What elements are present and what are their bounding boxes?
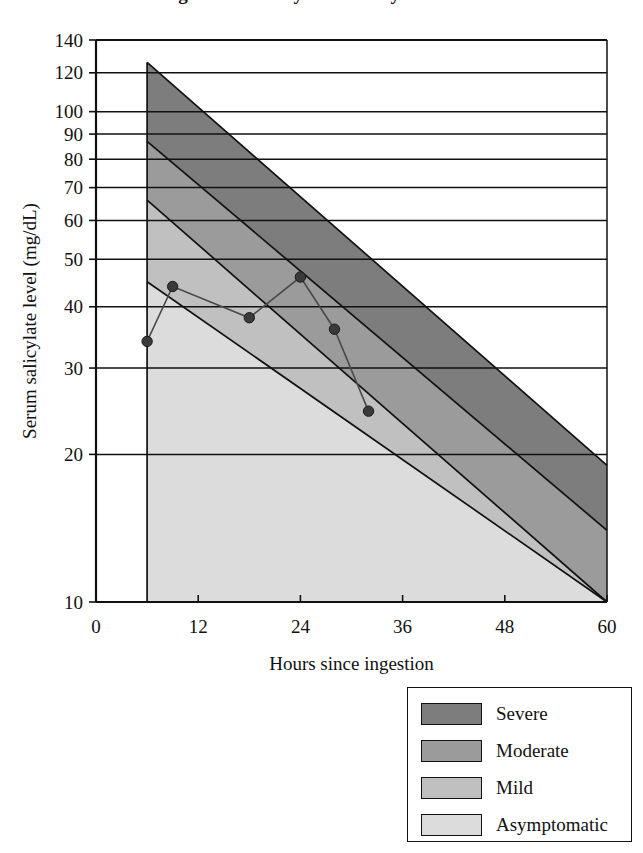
- data-point-5: [363, 406, 373, 416]
- toxicity-bands: [147, 62, 607, 602]
- legend-swatch-severe: [421, 703, 482, 725]
- done-nomogram-chart: 10203040506070809010012014001224364860Ho…: [0, 0, 643, 680]
- x-tick-label-36: 36: [393, 616, 412, 637]
- legend: Severe Moderate Mild Asymptomatic: [407, 687, 632, 842]
- legend-item-mild: Mild: [408, 771, 631, 804]
- x-tick-label-60: 60: [598, 616, 617, 637]
- legend-label-moderate: Moderate: [496, 741, 569, 760]
- y-tick-label-70: 70: [64, 177, 83, 198]
- y-tick-label-140: 140: [55, 30, 84, 51]
- legend-swatch-asymptomatic: [421, 814, 482, 836]
- x-tick-label-48: 48: [495, 616, 514, 637]
- data-point-2: [244, 313, 254, 323]
- legend-label-asymptomatic: Asymptomatic: [496, 815, 608, 834]
- data-point-1: [167, 281, 177, 291]
- y-tick-label-40: 40: [64, 296, 83, 317]
- y-tick-label-20: 20: [64, 444, 83, 465]
- y-tick-label-60: 60: [64, 210, 83, 231]
- data-point-3: [295, 272, 305, 282]
- y-tick-label-50: 50: [64, 249, 83, 270]
- y-tick-label-90: 90: [64, 124, 83, 145]
- legend-label-mild: Mild: [496, 778, 533, 797]
- y-tick-label-120: 120: [55, 62, 84, 83]
- legend-item-severe: Severe: [408, 697, 631, 730]
- data-point-0: [142, 336, 152, 346]
- legend-item-asymptomatic: Asymptomatic: [408, 808, 631, 841]
- legend-swatch-mild: [421, 777, 482, 799]
- legend-item-moderate: Moderate: [408, 734, 631, 767]
- legend-label-severe: Severe: [496, 704, 548, 723]
- y-tick-label-80: 80: [64, 149, 83, 170]
- x-tick-label-12: 12: [189, 616, 208, 637]
- y-tick-label-10: 10: [64, 592, 83, 613]
- y-tick-label-100: 100: [55, 101, 84, 122]
- x-tick-label-0: 0: [91, 616, 101, 637]
- chart-page: Done nomogram for salicylate toxicity 10…: [0, 0, 643, 853]
- y-tick-label-30: 30: [64, 358, 83, 379]
- legend-swatch-moderate: [421, 740, 482, 762]
- x-tick-label-24: 24: [291, 616, 311, 637]
- y-axis-title: Serum salicylate level (mg/dL): [19, 203, 41, 439]
- x-axis-title: Hours since ingestion: [269, 653, 434, 674]
- data-point-4: [329, 324, 339, 334]
